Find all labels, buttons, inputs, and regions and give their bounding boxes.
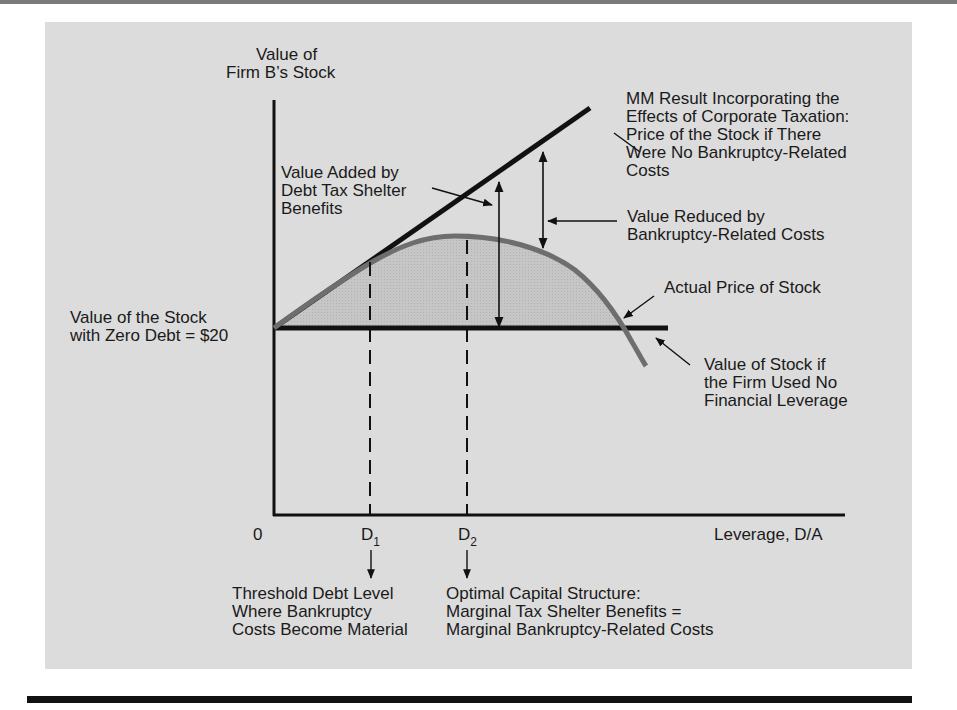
mm-label-line3: Price of the Stock if There <box>626 126 821 144</box>
actual-price-label: Actual Price of Stock <box>664 279 821 297</box>
value-added-label-line1: Value Added by <box>281 164 399 182</box>
d2-letter: D <box>458 525 470 544</box>
value-added-label-line3: Benefits <box>281 200 342 218</box>
value-added-label-line2: Debt Tax Shelter <box>281 182 406 200</box>
value-reduced-label-line2: Bankruptcy-Related Costs <box>627 226 824 244</box>
d1-letter: D <box>361 525 373 544</box>
zero-debt-label-line2: with Zero Debt = $20 <box>70 327 228 345</box>
x-axis-label: Leverage, D/A <box>714 526 823 544</box>
threshold-label-line3: Costs Become Material <box>232 621 408 639</box>
zero-debt-label-line1: Value of the Stock <box>70 309 207 327</box>
value-added-shaded-area <box>274 236 620 328</box>
y-axis-label-line1: Value of <box>256 46 317 64</box>
optimal-label-line2: Marginal Tax Shelter Benefits = <box>446 603 681 621</box>
d2-label: D2 <box>458 526 477 545</box>
d1-label: D1 <box>361 526 380 545</box>
threshold-label-line2: Where Bankruptcy <box>232 603 372 621</box>
actual-pointer-arrow <box>624 296 654 318</box>
origin-label: 0 <box>253 526 262 544</box>
mm-label-line4: Were No Bankruptcy-Related <box>626 144 847 162</box>
d2-subscript: 2 <box>470 535 477 549</box>
optimal-label-line1: Optimal Capital Structure: <box>446 585 641 603</box>
no-leverage-label-line3: Financial Leverage <box>704 392 848 410</box>
y-axis-label-line2: Firm B’s Stock <box>226 64 335 82</box>
threshold-label-line1: Threshold Debt Level <box>232 585 394 603</box>
optimal-label-line3: Marginal Bankruptcy-Related Costs <box>446 621 713 639</box>
mm-label-line5: Costs <box>626 162 669 180</box>
mm-label-line1: MM Result Incorporating the <box>626 90 840 108</box>
no-leverage-label-line1: Value of Stock if <box>704 356 826 374</box>
added-pointer-arrow <box>432 188 492 205</box>
no-leverage-label-line2: the Firm Used No <box>704 374 837 392</box>
mm-label-line2: Effects of Corporate Taxation: <box>626 108 849 126</box>
no-leverage-pointer-arrow <box>656 338 690 365</box>
d1-subscript: 1 <box>373 535 380 549</box>
value-reduced-label-line1: Value Reduced by <box>627 208 765 226</box>
